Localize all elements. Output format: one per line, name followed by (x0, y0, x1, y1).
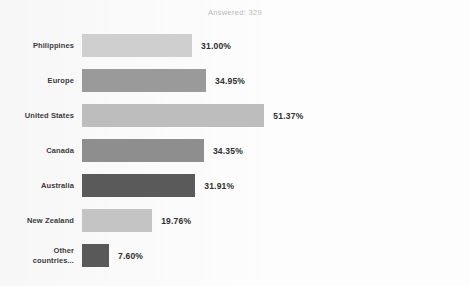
category-label: Europe (0, 63, 74, 98)
bar-philippines[interactable] (82, 34, 192, 57)
category-label-line: Philippines (33, 41, 74, 51)
category-label-line: Canada (46, 146, 74, 156)
bar-track: 19.76% (82, 209, 470, 232)
chart-row: Canada34.35% (0, 133, 470, 168)
bar-track: 34.95% (82, 69, 470, 92)
bar-europe[interactable] (82, 69, 206, 92)
category-label-line: United States (25, 111, 74, 121)
bar-australia[interactable] (82, 174, 195, 197)
category-label-line: New Zealand (27, 216, 74, 226)
bar-track: 31.91% (82, 174, 470, 197)
chart-row: Australia31.91% (0, 168, 470, 203)
category-label-line: Australia (41, 181, 74, 191)
bar-track: 7.60% (82, 244, 470, 267)
bar-new-zealand[interactable] (82, 209, 152, 232)
bar-value-label: 34.35% (213, 146, 243, 156)
bar-value-label: 31.91% (204, 181, 234, 191)
chart-row: Europe34.95% (0, 63, 470, 98)
chart-row: Othercountries...7.60% (0, 238, 470, 273)
chart-row: New Zealand19.76% (0, 203, 470, 238)
bar-value-label: 34.95% (215, 76, 245, 86)
category-label-line: countries... (33, 256, 74, 266)
answered-count-label: Answered: 329 (0, 8, 470, 17)
bar-track: 51.37% (82, 104, 470, 127)
bar-chart-figure: Answered: 329 Philippines31.00%Europe34.… (0, 0, 470, 286)
bar-united-states[interactable] (82, 104, 264, 127)
category-label: New Zealand (0, 203, 74, 238)
category-label: United States (0, 98, 74, 133)
category-label-line: Other (53, 246, 74, 256)
chart-plot-area: Philippines31.00%Europe34.95%United Stat… (0, 28, 470, 280)
category-label: Philippines (0, 28, 74, 63)
chart-row: United States51.37% (0, 98, 470, 133)
bar-value-label: 51.37% (273, 111, 303, 121)
category-label: Canada (0, 133, 74, 168)
category-label: Australia (0, 168, 74, 203)
bar-value-label: 7.60% (118, 251, 143, 261)
bar-value-label: 31.00% (201, 41, 231, 51)
category-label-line: Europe (48, 76, 74, 86)
bar-value-label: 19.76% (161, 216, 191, 226)
bar-other-countries[interactable] (82, 244, 109, 267)
bar-track: 31.00% (82, 34, 470, 57)
chart-row: Philippines31.00% (0, 28, 470, 63)
bar-canada[interactable] (82, 139, 204, 162)
bar-track: 34.35% (82, 139, 470, 162)
category-label: Othercountries... (0, 238, 74, 273)
